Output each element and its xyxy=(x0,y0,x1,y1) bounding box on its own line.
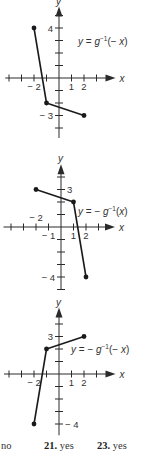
answer-number: 23. xyxy=(97,440,110,451)
answer-text: yes xyxy=(110,440,127,451)
x-tick-label: 2 xyxy=(81,377,86,388)
x-tick-label: 1 xyxy=(69,81,74,92)
x-axis-label: x xyxy=(119,73,126,84)
data-point xyxy=(44,101,49,106)
x-tick-label: 1 xyxy=(69,377,74,388)
x-tick-label: − 2 xyxy=(27,377,40,388)
graph-g-inverse-neg-x: xy− 2124− 3y = g−1(− x) xyxy=(5,0,127,138)
data-point xyxy=(32,26,37,31)
x-tick-label: − 2 xyxy=(27,81,40,92)
answer-item: 23. yes xyxy=(97,440,127,451)
data-point xyxy=(44,347,49,352)
x-tick-label: − 2 xyxy=(29,212,42,223)
data-point xyxy=(82,113,87,118)
x-tick-label: 2 xyxy=(83,230,88,241)
y-axis-label: y xyxy=(55,297,62,308)
data-point xyxy=(32,422,37,427)
data-point xyxy=(84,275,89,280)
x-axis-label: x xyxy=(119,369,126,380)
answer-item: 21. yes xyxy=(44,440,74,451)
x-axis-arrow-icon xyxy=(106,371,116,378)
x-axis-arrow-icon xyxy=(106,75,116,82)
answer-text: yes xyxy=(57,440,74,451)
y-tick-label: 3 xyxy=(48,331,53,342)
x-tick-label: 2 xyxy=(81,81,86,92)
answer-number: 21. xyxy=(44,440,57,451)
graph-neg-g-inverse-x: xy− 2− 1123− 4y = − g−1(x) xyxy=(4,153,128,289)
function-label: y = g−1(− x) xyxy=(77,35,128,47)
data-point xyxy=(34,187,39,192)
y-tick-label: − 3 xyxy=(40,110,53,121)
x-tick-label: − 1 xyxy=(42,230,55,241)
answer-item: no xyxy=(1,440,12,451)
answer-row: no 21. yes 23. yes xyxy=(0,440,149,456)
graph-neg-g-inverse-neg-x: xy− 2123− 4y = − g−1(− x) xyxy=(4,297,129,436)
figure-canvas: xy− 2124− 3y = g−1(− x) xy− 2− 1123− 4y … xyxy=(0,0,149,457)
y-axis-arrow-icon xyxy=(58,164,65,174)
y-tick-label: 4 xyxy=(48,23,53,34)
data-point xyxy=(82,334,87,339)
y-axis-label: y xyxy=(57,153,64,164)
y-axis-label: y xyxy=(55,0,62,7)
x-axis-label: x xyxy=(118,222,125,233)
function-label: y = − g−1(− x) xyxy=(70,343,129,355)
y-tick-label: − 4 xyxy=(42,272,55,283)
function-label: y = − g−1(x) xyxy=(77,205,128,217)
y-tick-label: − 4 xyxy=(65,419,78,430)
y-axis-arrow-icon xyxy=(56,308,63,318)
y-tick-label: 3 xyxy=(67,184,72,195)
data-point xyxy=(71,200,76,205)
answer-text: no xyxy=(1,440,12,451)
x-tick-label: 1 xyxy=(71,230,76,241)
x-axis-arrow-icon xyxy=(105,224,115,231)
